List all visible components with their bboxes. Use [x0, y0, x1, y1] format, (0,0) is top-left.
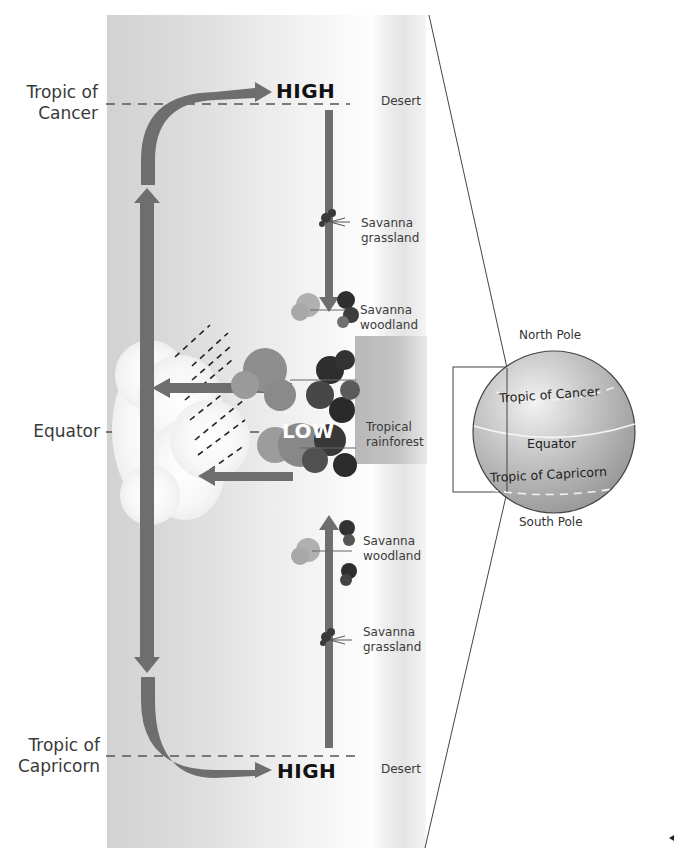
label-savanna-woodland-top: Savanna woodland: [360, 303, 418, 333]
savanna-grassland-top-line1: Savanna: [361, 216, 419, 231]
arrow-bottom-curve: [141, 677, 272, 778]
tropic-of-cancer-line1: Tropic of: [20, 82, 98, 103]
tropical-rainforest-line2: rainforest: [366, 435, 424, 450]
tree-savanna-grassland-top: [319, 209, 350, 227]
savanna-woodland-bottom-line1: Savanna: [363, 534, 421, 549]
tropical-rainforest-line1: Tropical: [366, 420, 424, 435]
tropic-of-capricorn-line1: Tropic of: [10, 735, 100, 756]
savanna-grassland-bottom-line1: Savanna: [363, 625, 421, 640]
tropic-of-cancer-line2: Cancer: [20, 103, 98, 124]
globe-south-pole: South Pole: [519, 515, 583, 529]
label-tropical-rainforest: Tropical rainforest: [366, 420, 424, 450]
savanna-grassland-top-line2: grassland: [361, 231, 419, 246]
label-savanna-woodland-bottom: Savanna woodland: [363, 534, 421, 564]
tree-rainforest: [231, 348, 360, 477]
low-pressure: LOW: [282, 419, 335, 443]
label-savanna-grassland-bottom: Savanna grassland: [363, 625, 421, 655]
savanna-woodland-top-line1: Savanna: [360, 303, 418, 318]
label-equator: Equator: [20, 421, 100, 442]
label-desert-top: Desert: [381, 94, 421, 109]
tree-savanna-grassland-bottom: [320, 628, 352, 646]
globe-illustration: [473, 351, 635, 513]
label-tropic-of-capricorn: Tropic of Capricorn: [10, 735, 100, 777]
arrow-wind-lower: [198, 466, 293, 486]
label-desert-bottom: Desert: [381, 762, 421, 777]
arrow-left-down: [134, 657, 160, 673]
high-pressure-bottom: HIGH: [277, 759, 336, 783]
tropic-of-capricorn-line2: Capricorn: [10, 756, 100, 777]
savanna-grassland-bottom-line2: grassland: [363, 640, 421, 655]
circulation-diagram: [0, 0, 674, 848]
savanna-woodland-top-line2: woodland: [360, 318, 418, 333]
high-pressure-top: HIGH: [276, 79, 335, 103]
arrow-top-curve: [141, 82, 272, 185]
label-tropic-of-cancer: Tropic of Cancer: [20, 82, 98, 124]
savanna-woodland-bottom-line2: woodland: [363, 549, 421, 564]
arrow-left-up: [134, 188, 160, 300]
corner-arrow-icon: [669, 835, 674, 841]
globe-north-pole: North Pole: [519, 328, 581, 342]
globe-equator: Equator: [527, 436, 576, 451]
label-savanna-grassland-top: Savanna grassland: [361, 216, 419, 246]
